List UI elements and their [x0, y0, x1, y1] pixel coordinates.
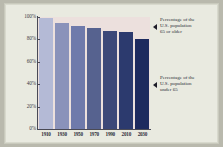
plot-area: [38, 17, 150, 129]
bar-1970: [87, 28, 101, 129]
y-tick-100pct: 100%: [8, 14, 36, 19]
annotation-line: under 65: [160, 87, 223, 93]
y-tick-mark: [38, 107, 40, 108]
y-tick-mark: [38, 17, 40, 18]
bar-1910: [39, 18, 53, 129]
bar-2030: [135, 39, 149, 129]
x-axis-line: [37, 129, 151, 130]
y-axis-line: [37, 16, 38, 130]
y-tick-mark: [38, 129, 40, 130]
chart-figure: 0%20%40%60%80%100% 191019301950197019902…: [4, 3, 219, 144]
y-tick-60pct: 60%: [8, 59, 36, 64]
callout-arrow-65-or-older: [153, 24, 157, 30]
y-tick-40pct: 40%: [8, 81, 36, 86]
x-tick-2030: 2030: [133, 131, 151, 137]
y-tick-0pct: 0%: [8, 126, 36, 131]
y-axis-ticks: 0%20%40%60%80%100%: [5, 4, 36, 145]
annotation-under-65: Percentage of the U.S. population under …: [160, 75, 223, 94]
bar-2010: [119, 32, 133, 129]
y-tick-20pct: 20%: [8, 104, 36, 109]
y-tick-80pct: 80%: [8, 36, 36, 41]
y-tick-mark: [38, 62, 40, 63]
bar-1990: [103, 31, 117, 129]
annotation-65-or-older: Percentage of the U.S. population 65 or …: [160, 17, 223, 36]
bar-1930: [55, 23, 69, 129]
bar-1950: [71, 26, 85, 129]
callout-arrow-under-65: [153, 82, 157, 88]
y-tick-mark: [38, 84, 40, 85]
annotation-line: 65 or older: [160, 29, 223, 35]
y-tick-mark: [38, 39, 40, 40]
x-axis-ticks: 1910193019501970199020102030: [38, 131, 151, 141]
